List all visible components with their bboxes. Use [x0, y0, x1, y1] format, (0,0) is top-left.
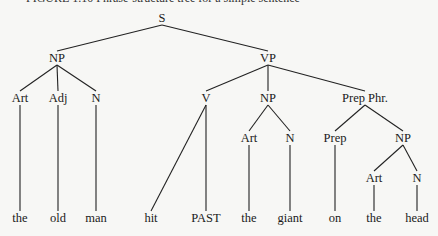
edge-NP2-Art2	[249, 105, 268, 131]
category-node-s: S	[159, 12, 166, 25]
leaf-word-w6: the	[241, 212, 256, 225]
category-node-n3: N	[412, 172, 421, 185]
leaf-word-w8: on	[329, 212, 342, 225]
leaf-word-w7: giant	[278, 212, 303, 225]
leaf-word-w10: head	[405, 212, 429, 225]
category-node-pp: Prep Phr.	[342, 92, 388, 105]
leaf-word-w4: hit	[144, 212, 157, 225]
category-node-art2: Art	[241, 132, 258, 145]
category-node-vp: VP	[260, 52, 276, 65]
leaf-word-w2: old	[50, 212, 66, 225]
edge-V-w4	[151, 105, 206, 211]
edge-NP1-Adj	[57, 65, 58, 91]
category-node-n2: N	[285, 132, 294, 145]
tree-edges	[0, 0, 438, 236]
edge-VP-PP	[268, 65, 365, 91]
edge-PP-NP3	[365, 105, 403, 131]
edge-S-NP1	[57, 25, 162, 51]
category-node-np3: NP	[395, 132, 411, 145]
leaf-word-w5: PAST	[191, 212, 220, 225]
category-node-art3: Art	[366, 172, 383, 185]
edge-NP3-Art3	[374, 145, 403, 171]
category-node-prep: Prep	[324, 132, 347, 145]
edge-NP1-Art1	[20, 65, 57, 91]
leaf-word-w3: man	[85, 212, 107, 225]
edge-S-VP	[162, 25, 268, 51]
category-node-np2: NP	[260, 92, 276, 105]
category-node-n1: N	[91, 92, 100, 105]
edge-NP2-N2	[268, 105, 290, 131]
edge-VP-V	[206, 65, 268, 91]
category-node-v: V	[201, 92, 210, 105]
leaf-word-w9: the	[366, 212, 381, 225]
leaf-word-w1: the	[12, 212, 27, 225]
category-node-art1: Art	[12, 92, 29, 105]
category-node-np1: NP	[49, 52, 65, 65]
edge-NP1-N1	[57, 65, 96, 91]
edge-PP-Prep	[335, 105, 365, 131]
edge-NP3-N3	[403, 145, 417, 171]
category-node-adj: Adj	[49, 92, 68, 105]
